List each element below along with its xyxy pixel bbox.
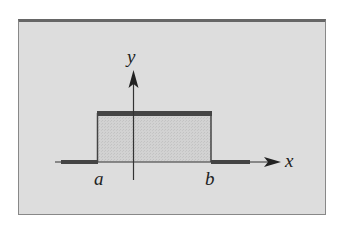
- tick-label-a: a: [94, 168, 104, 189]
- shaded-area: [97, 114, 211, 162]
- x-axis-label: x: [284, 150, 294, 171]
- left-zero-segment: [61, 160, 98, 164]
- right-zero-segment: [211, 160, 250, 164]
- uniform-function-diagram: y x a b: [0, 0, 350, 229]
- y-axis-label: y: [125, 46, 136, 67]
- tick-label-b: b: [205, 168, 215, 189]
- function-top-bar: [97, 111, 212, 116]
